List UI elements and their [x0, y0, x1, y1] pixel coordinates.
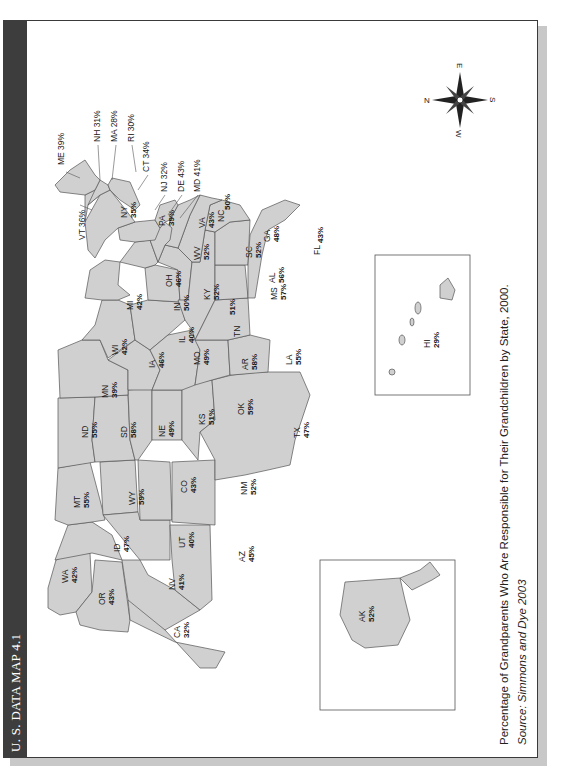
svg-text:WV: WV [192, 246, 202, 260]
svg-text:43%: 43% [316, 227, 325, 243]
svg-text:TX: TX [292, 427, 302, 438]
state-tx[interactable] [200, 372, 310, 480]
svg-text:MO: MO [192, 351, 202, 365]
label-nj: NJ 32% [159, 162, 169, 192]
svg-text:52%: 52% [249, 479, 258, 495]
svg-text:HI: HI [422, 340, 432, 349]
map-source: Source: Simmons and Dye 2003 [516, 579, 528, 745]
svg-text:59%: 59% [137, 489, 146, 505]
svg-text:43%: 43% [207, 212, 216, 228]
svg-text:KY: KY [202, 288, 212, 300]
svg-text:59%: 59% [246, 399, 255, 415]
svg-text:MT: MT [72, 496, 82, 508]
svg-text:MS: MS [269, 287, 279, 300]
svg-text:MI: MI [125, 301, 135, 310]
svg-text:40%: 40% [187, 532, 196, 548]
svg-text:LA: LA [284, 354, 294, 365]
svg-text:WY: WY [127, 491, 137, 505]
svg-text:49%: 49% [167, 421, 176, 437]
label-ct: CT 34% [141, 141, 151, 172]
svg-text:50%: 50% [182, 295, 191, 311]
svg-text:CA: CA [172, 626, 182, 638]
label-vt: VT 36% [77, 209, 87, 240]
svg-text:TN: TN [232, 326, 242, 337]
svg-text:48%: 48% [272, 226, 281, 242]
svg-text:45%: 45% [247, 546, 256, 562]
svg-text:IL: IL [177, 336, 187, 343]
label-me: ME 39% [56, 132, 66, 165]
svg-text:KS: KS [197, 413, 207, 425]
svg-text:58%: 58% [129, 422, 138, 438]
compass-s: S [488, 97, 497, 102]
svg-text:39%: 39% [167, 210, 176, 226]
compass-e: E [455, 63, 464, 68]
svg-text:FL: FL [312, 245, 322, 255]
svg-text:47%: 47% [122, 536, 131, 552]
svg-text:ND: ND [80, 426, 90, 438]
svg-text:OK: OK [236, 402, 246, 415]
svg-text:PA: PA [157, 215, 167, 226]
svg-text:42%: 42% [135, 294, 144, 310]
svg-text:OR: OR [97, 592, 107, 605]
svg-text:52%: 52% [202, 244, 211, 260]
svg-text:46%: 46% [157, 352, 166, 368]
label-ri: RI 30% [126, 114, 136, 142]
us-map: WA42% OR43% CA32% ID47% NV41% MT55% WY59… [0, 0, 569, 783]
svg-text:47%: 47% [302, 422, 311, 438]
svg-text:50%: 50% [223, 194, 232, 210]
svg-text:52%: 52% [212, 284, 221, 300]
svg-text:42%: 42% [120, 339, 129, 355]
svg-text:56%: 56% [277, 267, 286, 283]
svg-text:IN: IN [172, 303, 182, 312]
state-mi[interactable] [85, 260, 130, 300]
svg-text:NC: NC [216, 210, 226, 222]
svg-text:57%: 57% [279, 284, 288, 300]
state-mt[interactable] [55, 462, 105, 525]
svg-text:AR: AR [240, 358, 250, 370]
label-wa-abbr: WA [60, 569, 70, 583]
svg-text:58%: 58% [250, 354, 259, 370]
compass-rose-icon: N E S W [424, 63, 497, 138]
hawaii-inset: HI29% [375, 255, 470, 395]
compass-w: W [454, 130, 463, 138]
alaska-inset: AK52% [320, 560, 455, 710]
svg-text:IA: IA [147, 360, 157, 368]
svg-text:WI: WI [110, 345, 120, 355]
svg-text:52%: 52% [367, 606, 376, 622]
svg-text:MN: MN [100, 385, 110, 398]
svg-text:43%: 43% [189, 477, 198, 493]
svg-text:51%: 51% [228, 299, 237, 315]
svg-text:46%: 46% [174, 271, 183, 287]
svg-text:49%: 49% [202, 349, 211, 365]
svg-text:UT: UT [177, 537, 187, 548]
svg-text:55%: 55% [90, 422, 99, 438]
svg-text:51%: 51% [207, 409, 216, 425]
svg-text:AZ: AZ [237, 551, 247, 562]
map-caption: Percentage of Grandparents Who Are Respo… [498, 284, 510, 745]
state-wy[interactable] [100, 460, 138, 515]
label-md: MD 41% [192, 159, 202, 192]
svg-text:32%: 32% [182, 622, 191, 638]
label-nh: NH 31% [92, 110, 102, 142]
svg-text:NE: NE [157, 425, 167, 437]
svg-text:40%: 40% [187, 327, 196, 343]
svg-text:55%: 55% [294, 349, 303, 365]
svg-text:GA: GA [262, 229, 272, 242]
svg-text:OH: OH [164, 274, 174, 287]
svg-text:55%: 55% [82, 492, 91, 508]
label-ma: MA 28% [109, 110, 119, 142]
svg-text:41%: 41% [177, 574, 186, 590]
svg-text:52%: 52% [254, 242, 263, 258]
svg-text:NV: NV [167, 578, 177, 590]
svg-text:AL: AL [267, 272, 277, 283]
svg-text:CO: CO [179, 480, 189, 493]
svg-text:35%: 35% [129, 202, 138, 218]
svg-text:42%: 42% [70, 567, 79, 583]
svg-text:AK: AK [357, 610, 367, 622]
svg-text:SD: SD [119, 426, 129, 438]
svg-text:NY: NY [119, 206, 129, 218]
svg-text:29%: 29% [432, 332, 441, 348]
label-de: DE 43% [176, 160, 186, 192]
svg-text:SC: SC [244, 246, 254, 258]
svg-text:NM: NM [239, 482, 249, 495]
